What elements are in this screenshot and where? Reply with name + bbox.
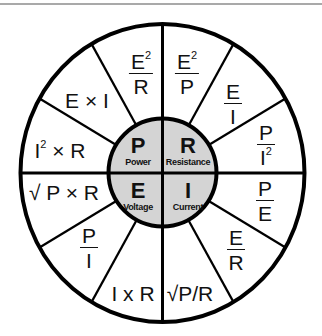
formula-p-over-e: P E [256, 178, 274, 224]
formula-e2-over-p: E2 P [175, 51, 199, 97]
center-resistance: R Resistance [166, 135, 211, 167]
formula-i-times-r: I x R [111, 283, 154, 304]
formula-e-over-r: E R [227, 227, 245, 273]
formula-e-times-i: E × I [65, 90, 109, 111]
formula-p-over-i: P I [80, 225, 98, 271]
formula-e-over-i: E I [224, 81, 242, 127]
formula-i2-times-r: I2 × R [34, 140, 85, 161]
ohms-law-wheel [0, 0, 322, 336]
formula-e2-over-r: E2 R [129, 51, 153, 97]
formula-sqrt-p-over-r: √P/R [167, 283, 214, 304]
formula-p-over-i2: P I2 [257, 122, 275, 168]
center-power: P Power [125, 135, 151, 167]
center-current: I Current [173, 180, 203, 212]
center-voltage: E Voltage [123, 180, 153, 212]
formula-sqrt-p-times-r: √ P × R [29, 182, 99, 203]
